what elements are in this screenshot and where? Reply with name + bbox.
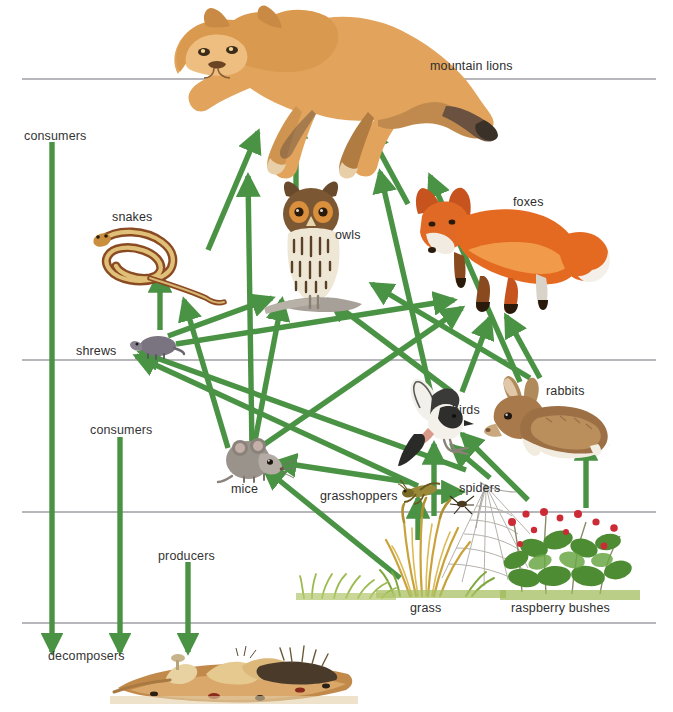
organism-label-shrews: shrews (76, 345, 117, 358)
mountain-lion-illustration (140, 8, 500, 183)
organism-label-mice: mice (231, 483, 258, 496)
snake-illustration (84, 222, 230, 308)
organism-label-snakes: snakes (112, 211, 153, 224)
tier-label-consumers_top: consumers (24, 130, 86, 143)
food-web-diagram: mountain lionssnakesowlsfoxesshrewsbirds… (0, 0, 673, 712)
fox-illustration (396, 180, 612, 310)
mouse-illustration (218, 432, 296, 486)
bird-illustration (388, 378, 484, 474)
organism-label-grass: grass (410, 602, 441, 615)
owl-illustration (258, 178, 368, 318)
tier-label-consumers_mid: consumers (90, 424, 152, 437)
raspberry-bush-illustration (500, 500, 640, 600)
organism-label-foxes: foxes (513, 196, 544, 209)
shrew-illustration (128, 330, 184, 360)
organism-label-raspberry_bushes: raspberry bushes (511, 602, 610, 615)
grass-fringe-illustration (296, 560, 396, 600)
organism-label-rabbits: rabbits (546, 385, 585, 398)
tier-label-producers: producers (158, 550, 215, 563)
organism-label-birds: birds (452, 404, 480, 417)
rabbit-illustration (474, 376, 614, 468)
organism-label-grasshoppers: grasshoppers (320, 490, 398, 503)
organism-label-mountain_lions: mountain lions (430, 60, 513, 73)
organism-label-owls: owls (335, 229, 361, 242)
organism-label-spiders: spiders (459, 482, 500, 495)
tier-label-decomposers: decomposers (48, 650, 125, 663)
decomposers-illustration (110, 630, 358, 704)
